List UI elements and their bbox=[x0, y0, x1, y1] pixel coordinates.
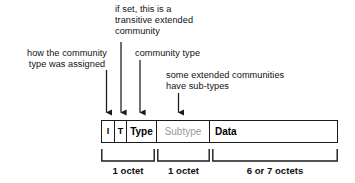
size-caption-octet-0: 1 octet bbox=[101, 166, 155, 176]
bracket-octet-1 bbox=[158, 149, 209, 161]
diagram-canvas: if set, this is a transitive extended co… bbox=[0, 0, 355, 183]
size-caption-octet-1: 1 octet bbox=[157, 166, 210, 176]
bracket-octet-2 bbox=[213, 149, 337, 161]
size-brackets-group bbox=[0, 0, 355, 183]
size-caption-octet-2: 6 or 7 octets bbox=[212, 166, 338, 176]
bracket-octet-0 bbox=[102, 149, 154, 161]
